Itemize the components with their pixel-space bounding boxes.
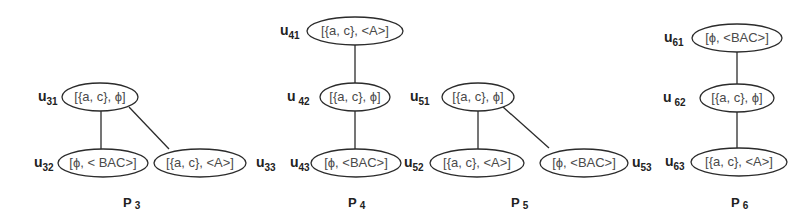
- node-label-sub: 51: [419, 96, 431, 107]
- tree-diagram: [{a, c}, ϕ] u31 [ϕ, < BAC>] u32 [{a, c},…: [0, 0, 812, 222]
- graph-title: P6: [731, 195, 749, 211]
- node-label: u33: [256, 154, 276, 173]
- graph-title-base: P: [731, 195, 740, 210]
- node-text: [ϕ, <BAC>]: [552, 155, 616, 170]
- node-label: u53: [632, 154, 652, 173]
- node-u33: [{a, c}, <A>] u33: [154, 149, 276, 177]
- node-text: [{a, c}, <A>]: [321, 23, 389, 38]
- graph-p5: [{a, c}, ϕ] u51 [{a, c}, <A>] u52 [ϕ, <B…: [404, 83, 652, 211]
- node-label: u62: [663, 89, 686, 108]
- node-label-sub: 41: [289, 30, 301, 41]
- node-u31: [{a, c}, ϕ] u31: [38, 83, 138, 111]
- node-label-sub: 62: [675, 97, 687, 108]
- graph-title-sub: 6: [743, 200, 749, 211]
- node-label-sub: 31: [47, 96, 59, 107]
- edge-u31-u33: [129, 107, 169, 149]
- node-text: [{a, c}, <A>]: [443, 155, 511, 170]
- node-label-sub: 61: [673, 37, 685, 48]
- node-label-sub: 43: [299, 162, 311, 173]
- node-label-base: u: [256, 154, 265, 170]
- node-label-base: u: [287, 88, 296, 104]
- node-label: u61: [664, 29, 684, 48]
- graph-title: P3: [123, 195, 141, 211]
- node-u51: [{a, c}, ϕ] u51: [410, 83, 514, 111]
- node-label: u43: [290, 154, 310, 173]
- graph-title-base: P: [511, 195, 520, 210]
- node-text: [{a, c}, ϕ]: [74, 89, 125, 104]
- node-label: u31: [38, 88, 58, 107]
- node-label-base: u: [38, 88, 47, 104]
- node-label: u51: [410, 88, 430, 107]
- node-label-sub: 53: [641, 162, 653, 173]
- node-text: [{a, c}, ϕ]: [329, 89, 380, 104]
- graph-title-base: P: [123, 195, 132, 210]
- node-label-base: u: [404, 154, 413, 170]
- edge-u51-u53: [503, 107, 549, 148]
- node-text: [ϕ, < BAC>]: [69, 155, 136, 170]
- node-u52: [{a, c}, <A>] u52: [404, 149, 524, 177]
- graph-title-base: P: [348, 195, 357, 210]
- node-label: u42: [287, 88, 310, 107]
- node-text: [{a, c}, ϕ]: [711, 90, 762, 105]
- node-label-sub: 32: [43, 162, 55, 173]
- node-label-sub: 63: [674, 161, 686, 172]
- node-u43: [ϕ, <BAC>] u43: [290, 149, 401, 177]
- node-label: u63: [665, 153, 685, 172]
- graph-title-sub: 4: [360, 200, 366, 211]
- node-label-sub: 52: [413, 162, 425, 173]
- node-label-sub: 42: [299, 96, 311, 107]
- node-label-base: u: [632, 154, 641, 170]
- graph-title: P5: [511, 195, 529, 211]
- node-u61: [ϕ, <BAC>] u61: [664, 24, 782, 52]
- node-u62: [{a, c}, ϕ] u62: [663, 84, 774, 112]
- node-u41: [{a, c}, <A>] u41: [280, 17, 403, 45]
- node-label-base: u: [663, 89, 672, 105]
- node-text: [ϕ, <BAC>]: [705, 30, 769, 45]
- node-label-base: u: [665, 153, 674, 169]
- graph-title-sub: 3: [135, 200, 141, 211]
- node-label-sub: 33: [265, 162, 277, 173]
- node-u42: [{a, c}, ϕ] u42: [287, 83, 390, 111]
- node-label-base: u: [410, 88, 419, 104]
- graph-p4: [{a, c}, <A>] u41 [{a, c}, ϕ] u42 [ϕ, <B…: [280, 17, 403, 211]
- graph-p6: [ϕ, <BAC>] u61 [{a, c}, ϕ] u62 [{a, c}, …: [663, 24, 787, 211]
- node-label-base: u: [280, 22, 289, 38]
- graph-p3: [{a, c}, ϕ] u31 [ϕ, < BAC>] u32 [{a, c},…: [34, 83, 276, 211]
- node-label: u41: [280, 22, 300, 41]
- graph-title-sub: 5: [523, 200, 529, 211]
- node-u63: [{a, c}, <A>] u63: [665, 148, 787, 176]
- node-u53: [ϕ, <BAC>] u53: [540, 149, 652, 177]
- node-label-base: u: [34, 154, 43, 170]
- node-text: [{a, c}, <A>]: [705, 154, 773, 169]
- node-text: [ϕ, <BAC>]: [324, 155, 388, 170]
- node-u32: [ϕ, < BAC>] u32: [34, 149, 148, 177]
- node-label: u32: [34, 154, 54, 173]
- node-label-base: u: [290, 154, 299, 170]
- graph-title: P4: [348, 195, 366, 211]
- node-text: [{a, c}, ϕ]: [452, 89, 503, 104]
- node-text: [{a, c}, <A>]: [166, 155, 234, 170]
- node-label: u52: [404, 154, 424, 173]
- node-label-base: u: [664, 29, 673, 45]
